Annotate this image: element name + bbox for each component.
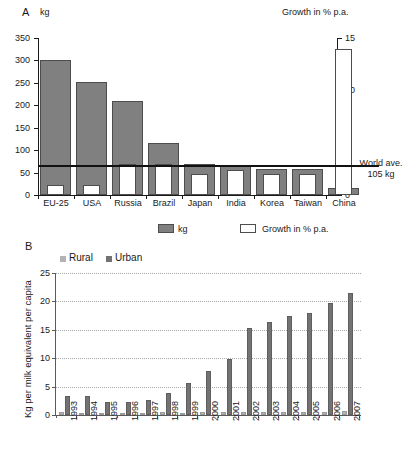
bar-group-2007[interactable] <box>341 273 361 415</box>
panel-a-bars <box>38 38 338 195</box>
bar-group-1996[interactable] <box>119 273 139 415</box>
xlabel-1998: 1998 <box>170 401 180 421</box>
bar-rural-2006[interactable] <box>322 412 327 415</box>
xlabel-1996: 1996 <box>130 401 140 421</box>
bar-rural-1993[interactable] <box>59 412 64 415</box>
bar-group-korea[interactable] <box>256 38 287 195</box>
ylabel-b-20: 20 <box>26 297 50 306</box>
bar-group-1994[interactable] <box>78 273 98 415</box>
bar-group-1999[interactable] <box>179 273 199 415</box>
tick-b-20 <box>52 301 56 302</box>
bar-rural-2000[interactable] <box>200 412 205 415</box>
ylabel-b-15: 15 <box>26 326 50 335</box>
bar-growth-brazil[interactable] <box>155 164 172 195</box>
bar-group-2004[interactable] <box>280 273 300 415</box>
bar-rural-1994[interactable] <box>79 413 84 415</box>
legend-label-growth: Growth in % p.a. <box>262 225 329 234</box>
panel-a-letter: A <box>22 7 29 18</box>
bar-group-1997[interactable] <box>139 273 159 415</box>
bar-group-1995[interactable] <box>98 273 118 415</box>
bar-group-eu25[interactable] <box>40 38 71 195</box>
bar-group-2003[interactable] <box>260 273 280 415</box>
bar-kg-eu25[interactable] <box>40 60 71 195</box>
bar-group-2005[interactable] <box>300 273 320 415</box>
legend-swatch-rural <box>60 256 66 262</box>
xlabel-2003: 2003 <box>271 401 281 421</box>
bar-group-2002[interactable] <box>240 273 260 415</box>
bar-rural-1996[interactable] <box>120 413 125 415</box>
legend-swatch-growth <box>240 224 256 233</box>
world-average-line2: 105 kg <box>344 169 418 180</box>
bar-group-1998[interactable] <box>159 273 179 415</box>
bar-group-2006[interactable] <box>321 273 341 415</box>
bar-group-usa[interactable] <box>76 38 107 195</box>
ylabel-left-250: 250 <box>4 79 30 88</box>
xlabel-1995: 1995 <box>109 401 119 421</box>
panel-b-plot-area: 25 20 15 10 5 0 <box>55 273 361 416</box>
panel-b-letter: B <box>25 241 32 252</box>
bar-rural-2004[interactable] <box>281 412 286 415</box>
legend-swatch-kg <box>158 224 174 233</box>
bar-rural-2003[interactable] <box>261 412 266 415</box>
ylabel-b-25: 25 <box>26 269 50 278</box>
bar-urban-2007[interactable] <box>348 293 353 415</box>
tick-right-0 <box>338 195 342 196</box>
ylabel-b-10: 10 <box>26 354 50 363</box>
bar-growth-taiwan[interactable] <box>299 174 316 195</box>
ylabel-b-0: 0 <box>26 411 50 420</box>
bar-group-brazil[interactable] <box>148 38 179 195</box>
ylabel-left-0: 0 <box>4 191 30 200</box>
bar-growth-korea[interactable] <box>263 174 280 195</box>
bar-urban-2006[interactable] <box>328 303 333 415</box>
xlabel-2001: 2001 <box>231 401 241 421</box>
ylabel-left-50: 50 <box>4 169 30 178</box>
legend-label-rural: Rural <box>69 252 93 263</box>
panel-b: B Kg per milk equivalent per capita Rura… <box>0 240 419 454</box>
bar-rural-2007[interactable] <box>342 411 347 415</box>
bar-growth-russia[interactable] <box>119 164 136 195</box>
xlabel-2004: 2004 <box>291 401 301 421</box>
legend-swatch-urban <box>106 256 112 262</box>
panel-a-right-axis-title: Growth in % p.a. <box>282 8 349 17</box>
xlabel-1993: 1993 <box>69 401 79 421</box>
world-average-line1: World ave. <box>344 158 418 169</box>
bar-urban-2005[interactable] <box>307 313 312 415</box>
ylabel-left-300: 300 <box>4 56 30 65</box>
bar-kg-usa[interactable] <box>76 82 107 196</box>
panel-a-left-axis-title: kg <box>40 8 50 17</box>
panel-a-plot-area: 0 50 100 150 200 250 300 350 0 5 10 15 <box>38 38 338 195</box>
bar-group-1993[interactable] <box>58 273 78 415</box>
xtick-b-0 <box>56 415 57 418</box>
bar-group-russia[interactable] <box>112 38 143 195</box>
tick-b-10 <box>52 358 56 359</box>
bar-rural-1999[interactable] <box>180 413 185 415</box>
tick-b-15 <box>52 330 56 331</box>
bar-rural-2001[interactable] <box>221 412 226 415</box>
bar-rural-1998[interactable] <box>160 412 165 415</box>
legend-label-kg: kg <box>178 225 188 234</box>
ylabel-left-150: 150 <box>4 124 30 133</box>
bar-growth-japan[interactable] <box>191 174 208 195</box>
tick-b-5 <box>52 387 56 388</box>
figure-container: A kg Growth in % p.a. 0 50 100 150 200 2 <box>0 0 419 454</box>
xlabel-1997: 1997 <box>150 401 160 421</box>
panel-a-baseline <box>38 195 338 196</box>
bar-growth-usa[interactable] <box>83 185 100 196</box>
bar-growth-eu25[interactable] <box>47 185 64 196</box>
world-average-annotation: World ave. 105 kg <box>344 158 418 180</box>
ylabel-left-200: 200 <box>4 101 30 110</box>
bar-rural-2005[interactable] <box>301 412 306 415</box>
bar-group-2000[interactable] <box>199 273 219 415</box>
bar-group-taiwan[interactable] <box>292 38 323 195</box>
bar-group-2001[interactable] <box>220 273 240 415</box>
bar-rural-1995[interactable] <box>99 413 104 415</box>
tick-b-25 <box>52 273 56 274</box>
xlabel-1994: 1994 <box>89 401 99 421</box>
bar-group-india[interactable] <box>220 38 251 195</box>
panel-a: A kg Growth in % p.a. 0 50 100 150 200 2 <box>0 0 419 240</box>
bar-growth-india[interactable] <box>227 170 244 195</box>
bar-rural-2002[interactable] <box>241 412 246 415</box>
bar-group-japan[interactable] <box>184 38 215 195</box>
bar-rural-1997[interactable] <box>140 413 145 415</box>
xlabel-2005: 2005 <box>311 401 321 421</box>
